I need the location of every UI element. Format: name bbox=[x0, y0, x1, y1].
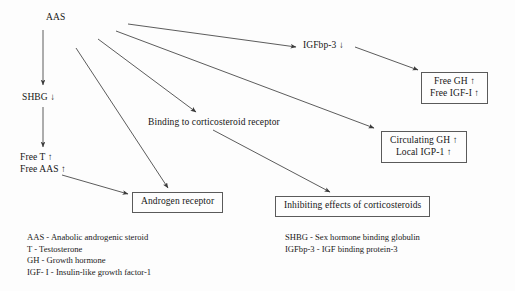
legend-left-item-1: T - Testosterone bbox=[27, 244, 151, 256]
legend-right-item-1: IGFbp-3 - IGF binding protein-3 bbox=[285, 244, 420, 256]
node-androgen-receptor-label: Androgen receptor bbox=[141, 196, 214, 206]
node-free-gh-line2: Free IGF-I ↑ bbox=[430, 88, 479, 100]
diagram-canvas: AAS SHBG ↓ Free T ↑ Free AAS ↑ IGFbp-3 ↓… bbox=[0, 0, 515, 291]
node-igfbp3: IGFbp-3 ↓ bbox=[303, 40, 344, 52]
node-inhibiting-label: Inhibiting effects of corticosteroids bbox=[284, 200, 421, 210]
node-aas-label: AAS bbox=[46, 12, 65, 22]
node-free-gh: Free GH ↑ Free IGF-I ↑ bbox=[421, 72, 488, 104]
legend-right-item-0: SHBG - Sex hormone binding globulin bbox=[285, 232, 420, 244]
node-igfbp3-label: IGFbp-3 ↓ bbox=[303, 40, 344, 50]
node-free-t-line1: Free T ↑ bbox=[20, 152, 66, 164]
node-free-t-line2: Free AAS ↑ bbox=[20, 164, 66, 176]
node-free-gh-line1: Free GH ↑ bbox=[430, 76, 479, 88]
legend-left-item-3: IGF- I - Insulin-like growth factor-1 bbox=[27, 267, 151, 279]
edge-free-aas-to-androgen-receptor bbox=[62, 175, 128, 194]
edge-binding-to-inhibiting bbox=[213, 130, 330, 192]
edge-igfbp3-to-free-gh bbox=[355, 47, 418, 70]
node-binding-label: Binding to corticosteroid receptor bbox=[148, 117, 280, 127]
node-shbg-label: SHBG ↓ bbox=[22, 92, 55, 102]
node-free-testosterone: Free T ↑ Free AAS ↑ bbox=[20, 152, 66, 175]
legend-left-item-0: AAS - Anabolic androgenic steroid bbox=[27, 232, 151, 244]
legend-left: AAS - Anabolic androgenic steroid T - Te… bbox=[27, 232, 151, 278]
edge-aas-to-igfbp3 bbox=[128, 24, 296, 47]
node-androgen-receptor: Androgen receptor bbox=[132, 192, 223, 213]
node-inhibiting-effects: Inhibiting effects of corticosteroids bbox=[275, 196, 430, 217]
legend-right: SHBG - Sex hormone binding globulin IGFb… bbox=[285, 232, 420, 255]
node-circulating-gh-line2: Local IGP-1 ↑ bbox=[390, 147, 458, 159]
legend-left-item-2: GH - Growth hormone bbox=[27, 255, 151, 267]
node-circulating-gh-line1: Circulating GH ↑ bbox=[390, 135, 458, 147]
edge-aas-to-binding bbox=[98, 39, 196, 112]
node-circulating-gh: Circulating GH ↑ Local IGP-1 ↑ bbox=[381, 131, 467, 163]
node-aas: AAS bbox=[46, 12, 65, 24]
node-binding-corticosteroid-receptor: Binding to corticosteroid receptor bbox=[148, 117, 280, 129]
node-shbg: SHBG ↓ bbox=[22, 92, 55, 104]
